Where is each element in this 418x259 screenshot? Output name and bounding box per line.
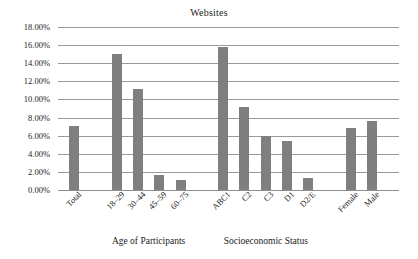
y-tick-label: 10.00%	[24, 95, 50, 104]
y-tick-label: 4.00%	[28, 149, 50, 158]
y-tick-label: 6.00%	[28, 131, 50, 140]
x-tick-label: D2/E	[299, 190, 318, 209]
bar	[176, 180, 186, 190]
x-tick-label: 45–59	[147, 190, 168, 211]
x-tick-label: ABC1	[211, 190, 233, 212]
x-tick-label: 18–29	[105, 190, 126, 211]
x-tick-label: C2	[240, 190, 253, 203]
bar	[112, 54, 122, 190]
x-tick-label: C3	[262, 190, 275, 203]
bar	[218, 47, 228, 190]
bar	[154, 175, 164, 190]
y-tick-label: 0.00%	[28, 186, 50, 195]
group-axis-title: Socioeconomic Status	[176, 236, 356, 247]
x-tick-label: Female	[336, 190, 360, 214]
bar	[133, 89, 143, 190]
bar	[346, 128, 356, 190]
y-tick-label: 2.00%	[28, 167, 50, 176]
y-tick-label: 12.00%	[24, 77, 50, 86]
plot-area	[58, 27, 399, 190]
x-tick-label: 30–44	[126, 190, 147, 211]
bar	[367, 121, 377, 190]
x-tick-label: Total	[65, 190, 84, 209]
y-tick-label: 14.00%	[24, 59, 50, 68]
y-axis-tick-labels: 18.00%16.00%14.00%12.00%10.00%8.00%6.00%…	[0, 27, 54, 190]
chart-title: Websites	[0, 7, 418, 19]
bar	[261, 136, 271, 190]
bar	[303, 178, 313, 190]
bar	[69, 126, 79, 190]
chart-figure: Websites 18.00%16.00%14.00%12.00%10.00%8…	[0, 0, 418, 259]
x-axis-tick-labels: Total18–2930–4445–5960–75ABC1C2C3D1D2/EF…	[58, 190, 399, 234]
y-tick-label: 16.00%	[24, 41, 50, 50]
y-tick-label: 8.00%	[28, 113, 50, 122]
x-tick-label: 60–75	[169, 190, 190, 211]
x-tick-label: Male	[363, 190, 382, 209]
bar	[282, 141, 292, 190]
bars-series	[58, 27, 399, 190]
x-tick-label: D1	[283, 190, 297, 204]
bar	[239, 107, 249, 190]
y-tick-label: 18.00%	[24, 23, 50, 32]
